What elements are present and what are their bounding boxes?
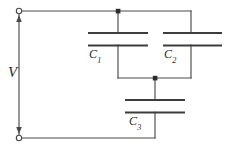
- label-capacitor-c2: C2: [164, 48, 176, 64]
- voltage-arrow-head-down: [16, 127, 22, 134]
- label-c3-symbol: C: [129, 114, 137, 128]
- label-c1-symbol: C: [89, 47, 97, 61]
- label-c2-symbol: C: [164, 47, 172, 61]
- junction-dot-middle: [153, 76, 158, 81]
- label-voltage-symbol: V: [8, 64, 17, 80]
- terminal-top-positive: [16, 8, 21, 13]
- terminal-bottom-negative: [16, 135, 21, 140]
- label-c1-subscript: 1: [97, 56, 101, 65]
- circuit-diagram-figure: V C1 C2 C3: [0, 0, 228, 151]
- junction-dot-top: [116, 9, 121, 14]
- label-voltage-source: V: [8, 65, 17, 80]
- circuit-schematic-svg: [0, 0, 228, 151]
- label-c3-subscript: 3: [137, 123, 141, 132]
- label-capacitor-c3: C3: [129, 115, 141, 131]
- voltage-arrow-head-up: [16, 15, 22, 22]
- label-c2-subscript: 2: [172, 56, 176, 65]
- label-capacitor-c1: C1: [89, 48, 101, 64]
